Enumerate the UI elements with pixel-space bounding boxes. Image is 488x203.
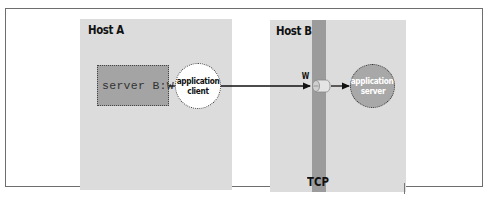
scan-mark bbox=[404, 183, 405, 194]
application-server-process: application server bbox=[350, 64, 395, 108]
server-label-line1: application bbox=[351, 76, 394, 86]
client-label-line1: application bbox=[177, 76, 220, 86]
application-client-process: application client bbox=[175, 63, 221, 109]
port-connector-icon bbox=[313, 80, 331, 92]
port-w-label: W bbox=[302, 72, 310, 81]
client-label-line2: client bbox=[187, 86, 208, 96]
connection-lines bbox=[0, 0, 488, 203]
server-label-line2: server bbox=[360, 86, 385, 96]
